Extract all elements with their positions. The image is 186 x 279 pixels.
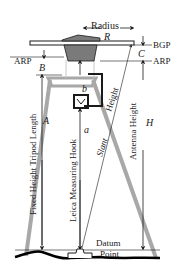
antenna-height-diagram: Radius R BGP C ARP ARP B b a A H Fixed H… bbox=[0, 0, 186, 279]
bgp-label: BGP bbox=[153, 40, 171, 50]
fixed-height-tripod-length-label: Fixed Height Tripod Length bbox=[28, 113, 38, 215]
c-symbol: C bbox=[138, 48, 145, 59]
slant-label: Slant bbox=[94, 136, 109, 157]
b-lower-symbol: b bbox=[82, 83, 87, 94]
arp-right-label: ARP bbox=[153, 56, 171, 66]
point-label: Point bbox=[100, 249, 120, 259]
datum-label: Datum bbox=[96, 238, 121, 248]
antenna-height-label: Antenna Height bbox=[128, 102, 138, 160]
b-upper-symbol: B bbox=[39, 62, 45, 73]
datum-point-marker bbox=[68, 249, 92, 258]
a-upper-symbol: A bbox=[42, 115, 50, 126]
arp-left-label: ARP bbox=[14, 56, 32, 66]
ground-plane-bar bbox=[30, 41, 134, 45]
radius-symbol: R bbox=[103, 31, 110, 42]
h-symbol: H bbox=[145, 117, 154, 128]
a-symbol: a bbox=[84, 124, 89, 135]
antenna-body bbox=[62, 35, 100, 61]
leica-measuring-hook-label: Leica Measuring Hook bbox=[68, 139, 78, 222]
radius-label: Radius bbox=[91, 20, 119, 31]
